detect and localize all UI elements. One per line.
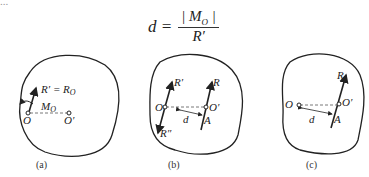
resultant-arrow-a xyxy=(29,88,36,112)
label-o2-a: O′ xyxy=(64,114,75,126)
point-o2-b xyxy=(204,105,208,109)
body-outline-a xyxy=(20,55,119,156)
body-outline-b xyxy=(150,54,243,154)
label-r-double-prime: R″ xyxy=(159,127,172,139)
label-o-b: O xyxy=(155,101,163,113)
point-o-b xyxy=(163,105,167,109)
point-o2-c xyxy=(337,102,341,106)
point-o-c xyxy=(297,103,301,107)
label-d-b: d xyxy=(183,113,189,125)
label-o-a: O xyxy=(23,114,31,126)
label-r-b: R xyxy=(212,76,220,88)
figure-b: R′ R″ R O O′ d A (b) xyxy=(150,54,243,171)
caption-b: (b) xyxy=(168,159,180,171)
figure-c: R O O′ d A (c) xyxy=(282,54,364,171)
label-o2-b: O′ xyxy=(209,101,220,113)
caption-c: (c) xyxy=(306,159,317,171)
figure-a: R′ = RO MO O O′ (a) xyxy=(20,55,119,171)
caption-a: (a) xyxy=(36,159,47,171)
label-a-b: A xyxy=(203,114,211,126)
label-o-c: O xyxy=(285,98,293,110)
label-d-c: d xyxy=(309,113,315,125)
label-moment-a: MO xyxy=(40,100,56,114)
label-o2-c: O′ xyxy=(342,96,353,108)
label-a-c: A xyxy=(333,113,341,125)
label-force-a: R′ = RO xyxy=(40,83,76,97)
label-r-prime: R′ xyxy=(173,76,184,88)
diagram-canvas: R′ = RO MO O O′ (a) R′ R″ R O O′ d A (b)… xyxy=(0,0,369,177)
label-r-c: R xyxy=(336,69,344,81)
distance-arrow-c xyxy=(302,108,332,114)
arrow-r-prime xyxy=(165,82,172,107)
